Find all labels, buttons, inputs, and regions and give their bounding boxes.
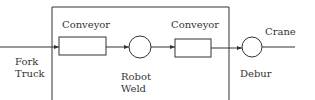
conveyor-2-label: Conveyor — [171, 19, 219, 30]
debur-station — [242, 37, 262, 57]
conveyor-2-box — [175, 39, 211, 57]
process-flow-diagram: Conveyor Fork Truck Robot Weld Conveyor … — [0, 0, 315, 100]
station-1-label-line1: Robot — [121, 71, 151, 82]
conveyor-1-label: Conveyor — [62, 19, 110, 30]
input-label-line2: Truck — [15, 68, 45, 79]
output-label: Crane — [265, 26, 296, 37]
input-label-line1: Fork — [15, 56, 39, 67]
station-2-label: Debur — [240, 68, 272, 79]
conveyor-1-box — [59, 37, 106, 55]
arrowhead-icon — [124, 45, 129, 49]
arrowhead-icon — [237, 46, 242, 50]
robot-weld-station — [129, 36, 151, 58]
arrowhead-icon — [170, 45, 175, 49]
station-1-label-line2: Weld — [121, 83, 147, 94]
arrowhead-icon — [54, 45, 59, 49]
